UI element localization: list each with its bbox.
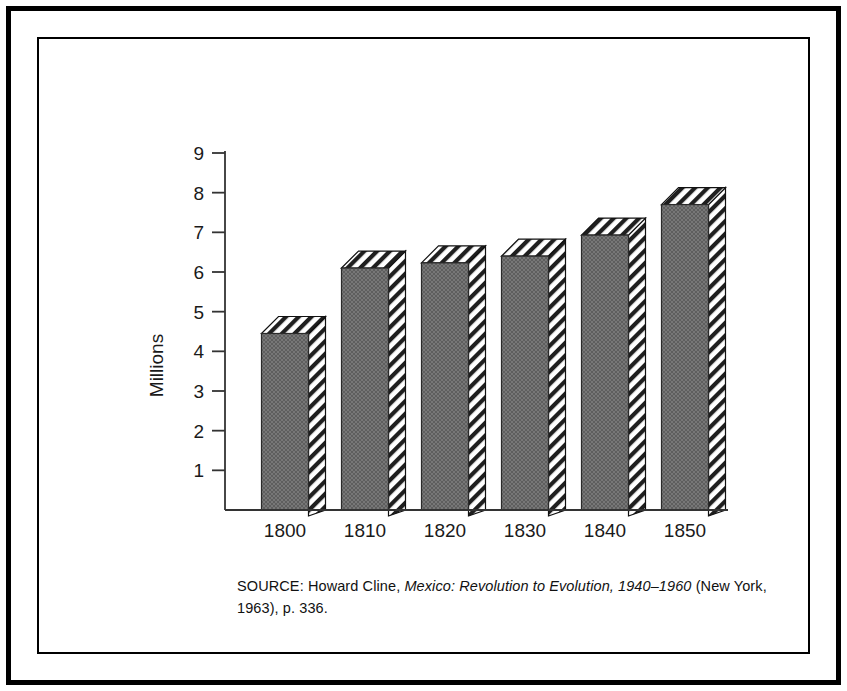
y-tick-label: 1	[193, 460, 204, 481]
x-tick-label: 1850	[664, 520, 706, 541]
x-tick-label: 1800	[264, 520, 306, 541]
y-tick-label: 2	[193, 421, 204, 442]
y-tick-label: 6	[193, 262, 204, 283]
figure-border-outer: 123456789Millions18001810182018301840185…	[6, 6, 841, 685]
source-note-prefix: SOURCE: Howard Cline,	[237, 578, 404, 594]
source-note-title: Mexico: Revolution to Evolution, 1940–19…	[404, 578, 691, 594]
y-tick-label: 4	[193, 341, 204, 362]
bar-front-face	[502, 256, 549, 510]
bar-1800[interactable]	[262, 316, 326, 516]
y-tick-label: 8	[193, 183, 204, 204]
bar-side-face	[549, 239, 566, 516]
bar-front-face	[582, 235, 629, 510]
bar-side-face	[309, 316, 326, 516]
y-tick-label: 5	[193, 302, 204, 323]
x-tick-label: 1820	[424, 520, 466, 541]
bar-1820[interactable]	[422, 246, 486, 516]
bar-side-face	[389, 251, 406, 516]
x-tick-label: 1830	[504, 520, 546, 541]
bar-1830[interactable]	[502, 239, 566, 516]
chart-render-group: 123456789Millions18001810182018301840185…	[146, 143, 728, 541]
bar-side-face	[469, 246, 486, 516]
bar-chart: 123456789Millions18001810182018301840185…	[39, 39, 808, 652]
y-tick-label: 7	[193, 222, 204, 243]
x-tick-label: 1810	[344, 520, 386, 541]
bar-front-face	[342, 268, 389, 510]
figure-border-inner: 123456789Millions18001810182018301840185…	[37, 37, 810, 654]
bar-side-face	[709, 188, 726, 516]
y-tick-label: 9	[193, 143, 204, 164]
bar-1850[interactable]	[662, 188, 726, 516]
bar-front-face	[662, 205, 709, 510]
x-tick-label: 1840	[584, 520, 626, 541]
bar-1840[interactable]	[582, 218, 646, 516]
bar-front-face	[262, 333, 309, 510]
source-note: SOURCE: Howard Cline, Mexico: Revolution…	[237, 575, 797, 620]
bar-side-face	[629, 218, 646, 516]
bar-1810[interactable]	[342, 251, 406, 516]
bar-front-face	[422, 263, 469, 510]
y-tick-label: 3	[193, 381, 204, 402]
chart-canvas: 123456789Millions18001810182018301840185…	[39, 39, 822, 666]
y-axis-title: Millions	[146, 334, 167, 397]
